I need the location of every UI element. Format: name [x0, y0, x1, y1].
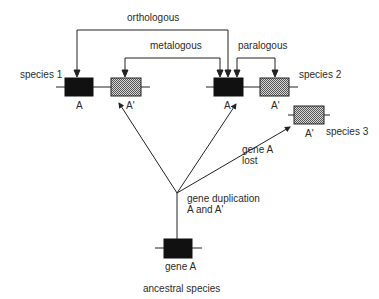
evolution-tree: [119, 103, 290, 240]
species1-chromosome: [56, 78, 150, 96]
ancestral-gene-a: [164, 239, 192, 258]
paralogous-bracket: [234, 58, 278, 77]
species2-gene-a-prime-label: A': [271, 100, 280, 111]
species3-chromosome: [288, 106, 330, 124]
metalogous-bracket: [122, 58, 223, 77]
species1-gene-a: [65, 78, 93, 96]
gene-duplication-label: gene duplication A and A': [187, 193, 260, 215]
species2-gene-a-prime: [260, 78, 289, 96]
ancestral-chromosome: [155, 239, 202, 258]
species1-label: species 1: [20, 69, 62, 80]
orthologous-bracket: [74, 30, 231, 77]
orthologous-label: orthologous: [127, 12, 179, 23]
species1-gene-a-prime-label: A': [126, 100, 135, 111]
gene-loss-label: gene A lost: [242, 144, 273, 166]
species3-label: species 3: [326, 126, 368, 137]
species2-chromosome: [206, 78, 298, 96]
species2-gene-a-label: A: [224, 100, 231, 111]
species3-gene-a-prime: [294, 106, 324, 124]
species1-gene-a-label: A: [76, 100, 83, 111]
species2-gene-a: [214, 78, 243, 96]
ancestral-species-label: ancestral species: [143, 283, 220, 294]
gene-loss-line2: lost: [242, 155, 273, 166]
species2-label: species 2: [299, 69, 341, 80]
gene-duplication-line2: A and A': [187, 204, 260, 215]
species3-gene-a-prime-label: A': [305, 128, 314, 139]
ancestral-gene-label: gene A: [165, 261, 196, 272]
gene-duplication-line1: gene duplication: [187, 193, 260, 204]
paralogous-label: paralogous: [238, 40, 287, 51]
species1-gene-a-prime: [111, 78, 141, 96]
metalogous-label: metalogous: [150, 40, 202, 51]
gene-loss-line1: gene A: [242, 144, 273, 155]
